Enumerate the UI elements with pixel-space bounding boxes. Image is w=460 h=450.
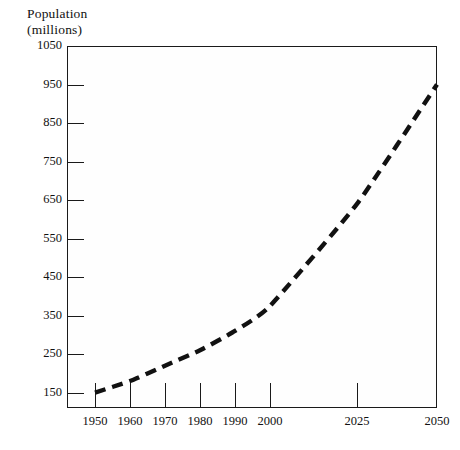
y-axis-tick-label: 950 xyxy=(22,78,62,91)
y-axis-tick-label: 150 xyxy=(22,386,62,399)
population-trend-line xyxy=(67,46,437,408)
y-axis-tick-label: 1050 xyxy=(22,39,62,52)
y-axis-title-line-2: (millions) xyxy=(27,22,88,38)
y-axis-tick-label: 850 xyxy=(22,116,62,129)
y-axis-tick-label: 450 xyxy=(22,270,62,283)
y-axis-tick-label: 550 xyxy=(22,232,62,245)
x-axis-tick-label: 2050 xyxy=(415,414,459,428)
x-axis-tick-label: 2000 xyxy=(248,414,292,428)
y-axis-tick-label: 250 xyxy=(22,347,62,360)
population-chart-figure: Population (millions) 150250350450550650… xyxy=(0,0,460,450)
y-axis-tick-label: 350 xyxy=(22,309,62,322)
y-axis-tick-label: 750 xyxy=(22,155,62,168)
y-axis-title: Population (millions) xyxy=(27,6,88,38)
y-axis-tick-label: 650 xyxy=(22,193,62,206)
population-trend-path xyxy=(95,85,437,393)
x-axis-tick-label: 2025 xyxy=(335,414,379,428)
y-axis-title-line-1: Population xyxy=(27,6,88,22)
